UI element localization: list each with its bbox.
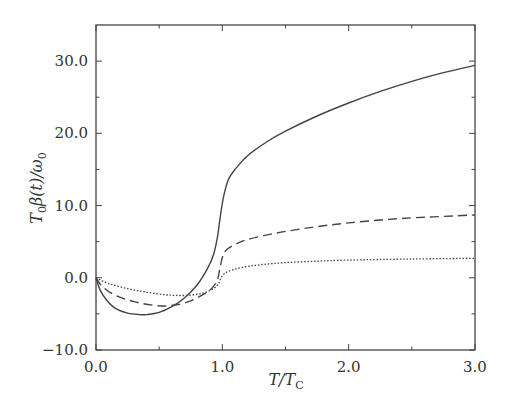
y-tick-label: 10.0 xyxy=(55,197,88,215)
series-lines xyxy=(96,65,475,314)
x-axis-title: T/TC xyxy=(268,370,303,392)
y-tick-label: 0.0 xyxy=(64,269,88,287)
series-line-solid xyxy=(96,65,475,314)
series-line-dashed xyxy=(96,215,475,306)
x-tick-label: 1.0 xyxy=(210,358,234,376)
line-chart: 0.01.02.03.0−10.00.010.020.030.0 T/TC T0… xyxy=(0,0,513,414)
x-tick-label: 3.0 xyxy=(463,358,487,376)
y-tick-label: 30.0 xyxy=(55,52,88,70)
series-line-dotted xyxy=(96,258,475,295)
axis-tick-labels: 0.01.02.03.0−10.00.010.020.030.0 xyxy=(42,52,487,376)
axis-ticks xyxy=(96,25,475,350)
x-tick-label: 0.0 xyxy=(84,358,108,376)
plot-border xyxy=(96,25,475,350)
y-axis-title: T0β(t)/ω0 xyxy=(27,152,49,223)
y-tick-label: −10.0 xyxy=(42,341,88,359)
y-tick-label: 20.0 xyxy=(55,124,88,142)
x-tick-label: 2.0 xyxy=(337,358,361,376)
plot-frame xyxy=(96,25,475,350)
